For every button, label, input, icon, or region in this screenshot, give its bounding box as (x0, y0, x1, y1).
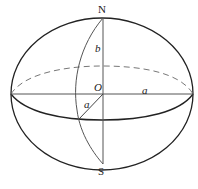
semi-major-label: a (142, 85, 148, 96)
oblique-radius-label: a (84, 99, 90, 110)
south-label: S (98, 166, 104, 177)
ellipsoid-diagram: N S O b a a (0, 0, 198, 189)
equator-back-dashed (11, 66, 193, 94)
semi-minor-label: b (95, 43, 101, 54)
equator-front (11, 94, 193, 120)
north-label: N (98, 4, 106, 15)
oblique-radius (79, 94, 103, 119)
center-label: O (94, 82, 102, 93)
ellipsoid-drawing (0, 0, 198, 189)
